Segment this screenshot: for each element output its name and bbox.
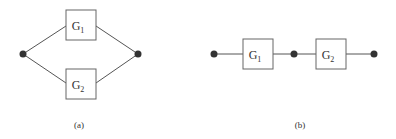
edge-g2-to-output xyxy=(96,54,138,83)
block-g2: G2 xyxy=(66,69,96,99)
block-g1: G1 xyxy=(243,39,273,69)
block-g2-subscript: 2 xyxy=(330,55,334,64)
edge-input-to-g2 xyxy=(23,54,66,83)
edge-g1-to-output xyxy=(96,26,138,54)
block-g1-subscript: 1 xyxy=(257,55,261,64)
output-node xyxy=(135,51,142,58)
input-node xyxy=(20,51,27,58)
block-g1-label: G xyxy=(249,48,258,62)
block-g1-subscript: 1 xyxy=(80,26,84,35)
caption-a: (a) xyxy=(64,120,94,130)
caption-b: (b) xyxy=(285,120,315,130)
block-g2-label: G xyxy=(72,78,81,92)
middle-node xyxy=(291,51,298,58)
block-g1-label: G xyxy=(72,19,81,33)
output-node xyxy=(371,51,378,58)
diagram-a-parallel: G1 G2 xyxy=(20,10,142,99)
block-diagrams: G1 G2 G1 G2 xyxy=(0,0,396,139)
block-g2-label: G xyxy=(322,48,331,62)
block-g1: G1 xyxy=(66,10,96,40)
block-g2-subscript: 2 xyxy=(80,85,84,94)
diagram-b-series: G1 G2 xyxy=(211,39,378,69)
input-node xyxy=(211,51,218,58)
edge-input-to-g1 xyxy=(23,26,66,54)
block-g2: G2 xyxy=(316,39,346,69)
